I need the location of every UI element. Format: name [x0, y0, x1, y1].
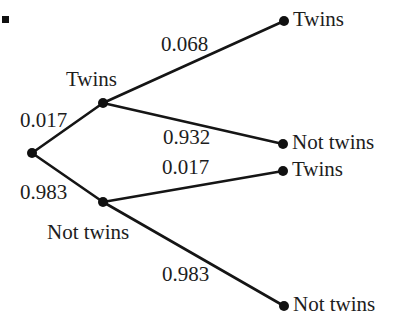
leaf-label-twins-1: Twins — [293, 9, 344, 30]
node-leaf-twins-1 — [279, 16, 289, 26]
probability-tree-figure: Twins Not twins Twins Not twins Twins No… — [0, 0, 409, 332]
node-leaf-not-twins-1 — [278, 139, 288, 149]
probability-not-twins-twins: 0.017 — [162, 157, 209, 178]
node-twins — [98, 98, 108, 108]
edge-not-twins-not-twins — [103, 202, 284, 306]
leaf-label-twins-2: Twins — [292, 159, 343, 180]
node-leaf-twins-2 — [278, 166, 288, 176]
node-leaf-not-twins-2 — [279, 301, 289, 311]
probability-root-twins: 0.017 — [20, 110, 67, 131]
node-label-not-twins: Not twins — [47, 222, 129, 243]
leaf-label-not-twins-1: Not twins — [292, 132, 374, 153]
node-not-twins — [98, 197, 108, 207]
leaf-label-not-twins-2: Not twins — [293, 294, 375, 315]
probability-twins-not-twins: 0.932 — [163, 127, 210, 148]
probability-twins-twins: 0.068 — [161, 34, 208, 55]
node-root — [27, 148, 37, 158]
probability-root-not-twins: 0.983 — [20, 182, 67, 203]
probability-not-twins-not-twins: 0.983 — [162, 264, 209, 285]
node-label-twins: Twins — [66, 69, 117, 90]
